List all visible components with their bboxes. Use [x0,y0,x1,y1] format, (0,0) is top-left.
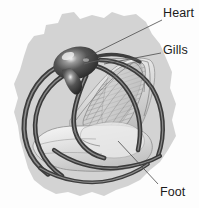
label-heart: Heart [163,7,194,20]
label-gills: Gills [163,44,188,57]
figure-container: Heart Gills Foot [0,0,199,208]
anatomy-illustration [0,0,199,208]
label-foot: Foot [160,186,185,199]
